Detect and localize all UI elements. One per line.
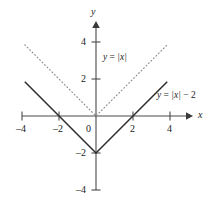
origin-label: 0 <box>86 124 91 134</box>
y-tick-label-pos4: 4 <box>81 37 86 47</box>
x-axis-label: x <box>198 110 202 120</box>
y-axis-label: y <box>91 7 95 17</box>
graph-canvas <box>0 0 222 206</box>
function-graph-figure: y x –4 –2 2 4 0 4 2 –2 –4 y = |x| y = |x… <box>0 0 222 206</box>
x-tick-label-pos2: 2 <box>130 124 135 134</box>
y-tick-label-neg2: –2 <box>76 148 86 158</box>
x-tick-label-neg2: –2 <box>53 124 63 134</box>
x-tick-label-neg4: –4 <box>16 124 26 134</box>
y-tick-label-pos2: 2 <box>81 74 86 84</box>
curve-label-minus2-shift: 2 <box>191 90 196 100</box>
y-tick-label-neg4: –4 <box>76 185 86 195</box>
curve-label-abs-x: y = |x| <box>103 53 127 63</box>
x-tick-label-pos4: 4 <box>167 124 172 134</box>
x-axis-arrowhead <box>186 112 193 120</box>
curve-label-abs-x-minus-2: y = |x| − 2 <box>157 91 196 101</box>
curve-label-minus2-expr: |x| <box>171 90 180 100</box>
curve-label-abs-x-expr: |x| <box>117 52 126 62</box>
y-axis-arrowhead <box>92 21 100 28</box>
